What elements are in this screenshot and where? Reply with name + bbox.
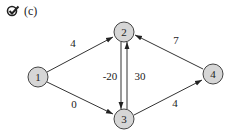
edge-labels: 4 0 -20 30 4 7 [70, 34, 179, 110]
edge-1-3 [47, 82, 113, 114]
edge-label-1-2: 4 [70, 37, 76, 49]
node-1-label: 1 [35, 71, 41, 83]
edge-label-4-2: 7 [173, 34, 179, 46]
edge-label-3-4: 4 [172, 97, 178, 109]
node-2: 2 [114, 22, 134, 42]
edge-1-2 [47, 37, 113, 72]
edge-4-2 [135, 35, 203, 69]
edge-3-4 [134, 80, 202, 115]
node-2-label: 2 [121, 26, 127, 38]
edge-label-1-3: 0 [71, 98, 77, 110]
edge-label-2-3: -20 [103, 70, 118, 82]
directed-graph: 4 0 -20 30 4 7 1 2 3 4 [0, 0, 238, 140]
node-3-label: 3 [121, 113, 127, 125]
node-4: 4 [203, 64, 223, 84]
node-1: 1 [28, 67, 48, 87]
edge-label-3-2: 30 [135, 70, 147, 82]
node-4-label: 4 [210, 68, 216, 80]
node-3: 3 [114, 109, 134, 129]
